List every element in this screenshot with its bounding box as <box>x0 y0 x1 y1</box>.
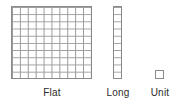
flat-block <box>11 6 92 79</box>
long-label: Long <box>100 87 136 99</box>
unit-block <box>155 70 164 79</box>
flat-label: Flat <box>0 87 104 99</box>
base-ten-blocks-diagram: Flat Long Unit <box>0 0 178 106</box>
unit-label: Unit <box>142 87 178 99</box>
long-block <box>113 6 122 79</box>
